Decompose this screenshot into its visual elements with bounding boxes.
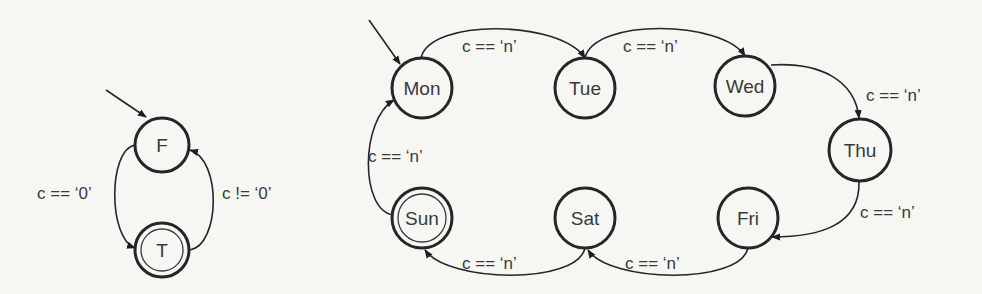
state-label-Fri: Fri xyxy=(737,208,759,229)
edge-label-Fri-to-Sat: c == ‘n’ xyxy=(625,254,680,273)
state-label-Thu: Thu xyxy=(844,140,877,161)
state-label-F: F xyxy=(156,135,168,156)
state-Wed: Wed xyxy=(715,56,775,116)
edge-label-Thu-to-Fri: c == ‘n’ xyxy=(860,203,915,222)
edge-label-Sat-to-Sun: c == ‘n’ xyxy=(462,254,517,273)
state-Sun-accepting: Sun xyxy=(392,188,452,248)
state-Tue: Tue xyxy=(555,58,615,118)
state-Sat: Sat xyxy=(555,188,615,248)
state-diagram-canvas: c == ‘0’ c != ‘0’ F T c == ‘n’ c == ‘n’ … xyxy=(0,0,982,294)
state-label-Sun: Sun xyxy=(405,208,439,229)
edge-T-to-F xyxy=(190,150,213,250)
state-label-Wed: Wed xyxy=(726,76,765,97)
edge-Thu-to-Fri xyxy=(772,182,859,237)
state-Fri: Fri xyxy=(718,188,778,248)
state-label-T: T xyxy=(156,240,168,261)
edge-label-F-to-T: c == ‘0’ xyxy=(37,184,92,203)
state-label-Sat: Sat xyxy=(571,208,600,229)
state-Thu: Thu xyxy=(829,119,891,181)
state-T-accepting: T xyxy=(135,223,189,277)
weekday-fsm: c == ‘n’ c == ‘n’ c == ‘n’ c == ‘n’ c ==… xyxy=(368,20,921,275)
edge-label-T-to-F: c != ‘0’ xyxy=(222,184,272,203)
state-label-Mon: Mon xyxy=(404,78,441,99)
state-label-Tue: Tue xyxy=(569,78,601,99)
initial-arrow-Mon xyxy=(369,20,400,64)
edge-label-Sun-to-Mon: c == ‘n’ xyxy=(368,147,423,166)
edge-Wed-to-Thu xyxy=(771,65,859,118)
edge-label-Wed-to-Thu: c == ‘n’ xyxy=(866,86,921,105)
state-F: F xyxy=(135,118,189,172)
edge-label-Mon-to-Tue: c == ‘n’ xyxy=(462,37,517,56)
initial-arrow-F xyxy=(106,90,146,117)
edge-F-to-T xyxy=(115,145,135,248)
edge-label-Tue-to-Wed: c == ‘n’ xyxy=(623,37,678,56)
state-Mon: Mon xyxy=(392,58,452,118)
boolean-fsm: c == ‘0’ c != ‘0’ F T xyxy=(37,90,272,277)
